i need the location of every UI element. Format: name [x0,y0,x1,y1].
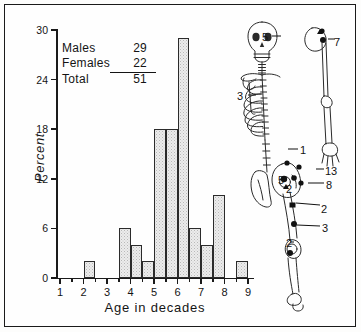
x-minor-tick [142,278,144,282]
skeleton-annotation-label: 3 [322,223,328,234]
legend-row: Females22 [62,57,156,73]
legend-value: 29 [110,42,156,57]
histogram-bar [84,261,96,278]
histogram-bar [119,228,131,278]
x-tick-label: 7 [193,286,209,298]
legend-value: 51 [110,73,156,89]
histogram-bar [201,245,213,278]
x-tick-label: 2 [76,286,92,298]
histogram-bar [142,261,154,278]
x-minor-tick [95,278,97,282]
x-tick [106,278,108,284]
skeleton-annotation-label: 5 [278,175,284,186]
legend-row: Males29 [62,42,156,57]
skeleton-annotation-label: 5 [262,32,268,43]
y-tick [51,228,57,230]
y-tick-label: 0 [24,273,48,283]
summary-legend: Males29Females22Total51 [62,42,156,88]
y-axis-title: Percent [32,113,47,203]
x-minor-tick [165,278,167,282]
x-tick [153,278,155,284]
skeleton-annotation-label: 13 [325,166,337,177]
y-tick-label: 24 [24,75,48,85]
x-axis-title: Age in decades [56,300,254,315]
x-minor-tick [71,278,73,282]
histogram-bar [166,129,178,278]
skeleton-annotation-label: 3 [237,91,243,102]
skeleton-annotation-label: 2 [286,184,292,195]
x-tick-label: 8 [217,286,233,298]
histogram-bar [189,228,201,278]
x-tick [83,278,85,284]
x-tick-label: 3 [99,286,115,298]
legend-label: Total [62,73,110,89]
y-axis-line [56,29,58,279]
y-tick [51,29,57,31]
legend-table: Males29Females22Total51 [62,42,156,88]
skeleton-illustration [236,12,356,312]
skeleton-annotation-label: 7 [334,37,340,48]
x-minor-tick [189,278,191,282]
x-tick [200,278,202,284]
legend-label: Females [62,57,110,73]
x-tick-label: 6 [170,286,186,298]
skeleton-annotation-label: 2 [321,204,327,215]
y-tick-label: 6 [24,223,48,233]
y-tick [51,79,57,81]
skeleton-diagram: 573113528232 [236,12,356,312]
x-tick [130,278,132,284]
x-tick [224,278,226,284]
histogram-bar [213,195,225,278]
legend-label: Males [62,42,110,57]
legend-value: 22 [110,57,156,73]
x-tick [177,278,179,284]
figure-root: 0612182430 123456789 Percent Age in deca… [0,0,361,332]
x-tick [59,278,61,284]
histogram-bar [178,38,190,278]
y-tick [51,277,57,279]
y-tick-label: 30 [24,25,48,35]
y-tick [51,178,57,180]
legend-row: Total51 [62,73,156,89]
x-tick-label: 5 [146,286,162,298]
skeleton-annotation-label: 2 [286,238,292,249]
skeleton-annotation-label: 1 [300,145,306,156]
histogram-bar [131,245,143,278]
x-minor-tick [118,278,120,282]
x-tick-label: 1 [52,286,68,298]
skeleton-annotation-label: 8 [326,180,332,191]
histogram-bar [154,129,166,278]
x-minor-tick [212,278,214,282]
x-tick-label: 4 [123,286,139,298]
y-tick [51,128,57,130]
